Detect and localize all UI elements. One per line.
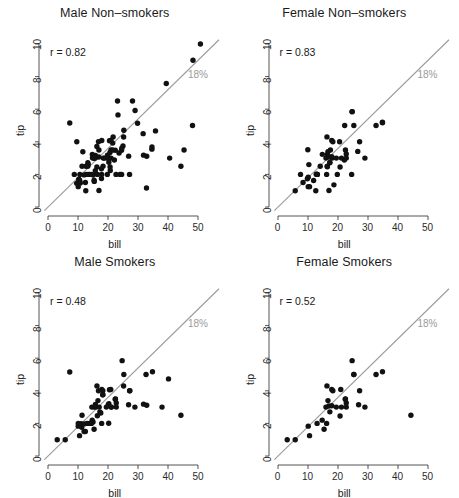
data-point (144, 154, 149, 159)
reference-line-label: 18% (418, 318, 438, 329)
data-point (89, 172, 94, 177)
data-point (119, 172, 124, 177)
data-point (135, 121, 140, 126)
data-point (93, 402, 98, 407)
data-point (104, 404, 109, 409)
data-point (121, 134, 126, 139)
data-point (348, 172, 353, 177)
data-point (91, 155, 96, 160)
data-point (126, 153, 131, 158)
data-point (119, 358, 124, 363)
y-axis-label: tip (244, 124, 256, 135)
x-tick-label: 40 (155, 471, 181, 482)
data-point (362, 404, 367, 409)
correlation-annotation: r = 0.83 (280, 46, 316, 58)
data-point (297, 172, 302, 177)
data-point (310, 178, 315, 183)
data-point (351, 372, 356, 377)
data-point (119, 148, 124, 153)
x-tick-label: 50 (185, 471, 211, 482)
x-tick-label: 40 (385, 222, 411, 233)
y-tick-label: 4 (32, 391, 43, 397)
panel-4: Female Smokers024681001020304050tipbillr… (230, 249, 459, 498)
data-point (351, 123, 356, 128)
data-point (198, 41, 203, 46)
data-point (79, 164, 84, 169)
data-point (355, 402, 360, 407)
data-point (284, 437, 289, 442)
y-axis-label: tip (244, 373, 256, 384)
data-point (190, 58, 195, 63)
data-point (355, 149, 360, 154)
data-point (76, 421, 81, 426)
data-point (83, 429, 88, 434)
data-point (326, 403, 331, 408)
data-point (319, 417, 324, 422)
data-point (338, 387, 343, 392)
data-point (334, 172, 339, 177)
data-point (63, 437, 68, 442)
data-point (81, 172, 86, 177)
data-point (130, 98, 135, 103)
data-point (126, 402, 131, 407)
reference-line-label: 18% (188, 69, 208, 80)
data-point (336, 139, 341, 144)
data-point (314, 172, 319, 177)
x-tick-label: 50 (185, 222, 211, 233)
data-point (327, 409, 332, 414)
data-point (83, 180, 88, 185)
data-point (132, 108, 137, 113)
data-point (121, 383, 126, 388)
x-tick-label: 40 (155, 222, 181, 233)
data-point (94, 164, 99, 169)
x-tick-label: 10 (295, 222, 321, 233)
data-point (373, 372, 378, 377)
data-point (167, 155, 172, 160)
y-tick-label: 8 (262, 326, 273, 332)
data-point (300, 180, 305, 185)
x-tick-label: 30 (355, 471, 381, 482)
data-point (149, 144, 154, 149)
data-point (324, 134, 329, 139)
data-point (314, 421, 319, 426)
data-point (115, 112, 120, 117)
data-point (89, 421, 94, 426)
x-tick-label: 30 (355, 222, 381, 233)
data-point (132, 404, 137, 409)
data-point (178, 413, 183, 418)
data-point (102, 155, 107, 160)
data-point (72, 172, 77, 177)
y-tick-label: 2 (262, 424, 273, 430)
data-point (379, 120, 384, 125)
x-tick-label: 50 (415, 222, 441, 233)
y-tick-label: 10 (262, 288, 273, 299)
y-tick-label: 0 (262, 207, 273, 213)
data-point (121, 128, 126, 133)
data-point (305, 423, 310, 428)
data-point (326, 154, 331, 159)
data-point (292, 188, 297, 193)
y-tick-label: 2 (32, 424, 43, 430)
x-axis-label: bill (230, 487, 459, 498)
x-axis-label: bill (0, 238, 230, 249)
data-point (342, 397, 347, 402)
data-point (91, 427, 96, 432)
correlation-annotation: r = 0.48 (50, 295, 86, 307)
data-point (306, 433, 311, 438)
x-axis-label: bill (230, 238, 459, 249)
data-point (324, 383, 329, 388)
data-point (323, 421, 328, 426)
data-point (113, 148, 118, 153)
data-point (379, 369, 384, 374)
data-point (97, 409, 102, 414)
x-tick-label: 30 (125, 222, 151, 233)
data-point (321, 427, 326, 432)
panel-2: Female Non–smokers024681001020304050tipb… (230, 0, 459, 249)
data-point (333, 404, 338, 409)
x-tick-label: 0 (265, 471, 291, 482)
data-point (349, 358, 354, 363)
data-point (108, 155, 113, 160)
data-point (127, 172, 132, 177)
data-point (113, 397, 118, 402)
x-tick-label: 20 (325, 471, 351, 482)
